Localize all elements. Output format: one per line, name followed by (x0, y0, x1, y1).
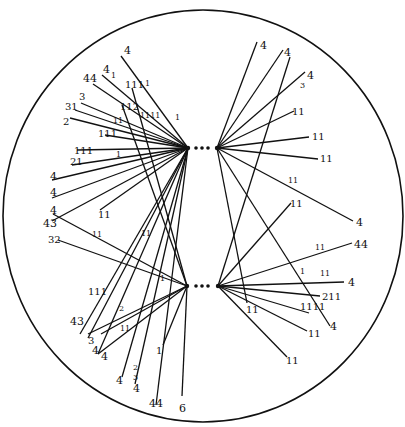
hub-group (185, 146, 220, 288)
edge-line (80, 148, 188, 334)
endpoint-label-group: 4444331211111121444111111124332111433444… (43, 39, 368, 415)
connector-dot (206, 146, 210, 150)
midline-mark: 1 (145, 79, 150, 88)
midline-mark: 1 (160, 274, 165, 283)
edge-line (218, 282, 344, 286)
endpoint-label: 4 (116, 374, 123, 387)
edge-line (58, 240, 187, 286)
endpoint-label: 3 (79, 91, 85, 102)
connector-dot (194, 284, 198, 288)
hub-node-lower-right (216, 284, 220, 288)
edge-line (182, 286, 187, 396)
midline-mark: 11 (320, 269, 330, 278)
midline-mark: 3 (300, 81, 305, 90)
midline-mark: 2 (119, 304, 124, 313)
endpoint-label: 11 (320, 153, 333, 164)
endpoint-label: 4 (50, 204, 57, 217)
endpoint-label: 21 (70, 156, 83, 167)
midline-mark: 3 (133, 373, 138, 382)
midline-mark: 11 (92, 230, 102, 239)
midline-mark: 11 (141, 229, 151, 238)
midline-mark: 1111 (140, 111, 160, 120)
midline-mark: 1 (175, 113, 180, 122)
midline-mark-group: 1111111111111121112311111113 (92, 71, 330, 382)
endpoint-label: 111 (98, 128, 117, 139)
endpoint-label: 4 (92, 344, 99, 357)
endpoint-label: 4 (330, 320, 337, 333)
edge-line (218, 243, 352, 286)
hub-node-lower-left (185, 284, 189, 288)
endpoint-label: 4 (348, 276, 355, 289)
endpoint-label: 44 (149, 397, 163, 410)
endpoint-label: 1 (156, 345, 162, 356)
endpoint-label: 4 (50, 170, 57, 183)
edge-line (217, 148, 318, 159)
endpoint-label: 112 (120, 101, 139, 112)
endpoint-label: 11 (290, 198, 303, 209)
midline-mark: 1 (300, 267, 305, 276)
endpoint-label: 2 (63, 116, 69, 127)
endpoint-label: 44 (354, 238, 368, 251)
hub-node-upper-right (215, 146, 219, 150)
endpoint-label: 4 (50, 186, 57, 199)
graph-diagram: 1111111111111121112311111113 44443312111… (0, 0, 405, 427)
midline-mark: 11 (315, 243, 325, 252)
edge-line (101, 286, 187, 334)
endpoint-label: 4 (307, 69, 314, 82)
endpoint-label: 111 (74, 145, 93, 156)
edge-line (77, 148, 188, 150)
endpoint-label: 4 (133, 382, 140, 395)
connector-dot (194, 146, 198, 150)
hub-node-upper-left (186, 146, 190, 150)
edge-line (75, 110, 188, 148)
endpoint-label: 4 (101, 350, 108, 363)
endpoint-label: 4 (356, 216, 363, 229)
endpoint-label: 11 (286, 355, 299, 366)
endpoint-label: 43 (43, 217, 57, 230)
endpoint-label: 111 (125, 79, 144, 90)
endpoint-label: 11 (292, 106, 305, 117)
endpoint-label: 32 (48, 234, 61, 245)
endpoint-label: 11 (98, 209, 111, 220)
midline-mark: 1 (116, 150, 121, 159)
edge-line (53, 214, 187, 286)
connector-dot (200, 146, 204, 150)
endpoint-label: 6 (179, 402, 186, 415)
midline-mark: 1 (111, 71, 116, 80)
endpoint-label: 44 (83, 72, 97, 85)
edge-line (218, 203, 291, 286)
connector-dot (206, 284, 210, 288)
midline-mark: 11 (288, 176, 298, 185)
edge-line (218, 57, 290, 286)
endpoint-label: 4 (103, 63, 110, 76)
endpoint-label: 4 (284, 46, 291, 59)
midline-mark: 11 (120, 324, 130, 333)
endpoint-label: 43 (70, 315, 84, 328)
endpoint-label: 4 (260, 39, 267, 52)
midline-mark: 2 (133, 363, 138, 372)
connector-dot-group (194, 146, 210, 288)
endpoint-label: 31 (65, 101, 78, 112)
midline-mark: 11 (113, 116, 123, 125)
endpoint-label: 11 (312, 131, 325, 142)
endpoint-label: 111 (88, 286, 107, 297)
endpoint-label: 1111 (300, 301, 325, 312)
endpoint-label: 11 (246, 304, 259, 315)
endpoint-label: 11 (308, 328, 321, 339)
endpoint-label: 4 (124, 44, 131, 57)
connector-dot (200, 284, 204, 288)
